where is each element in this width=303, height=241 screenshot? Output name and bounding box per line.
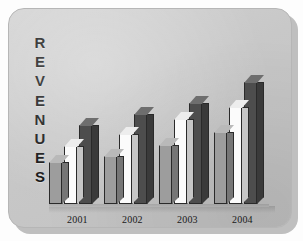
- bar-2001-series-1: [49, 162, 62, 204]
- x-tick-label-2002: 2002: [122, 214, 143, 225]
- bar-side-face: [227, 132, 234, 204]
- bar-side-face: [77, 146, 84, 204]
- screenshot-root: R E V E N U E S 2001 2002 2003 2004: [0, 0, 303, 241]
- bar-side-face: [202, 103, 209, 204]
- x-tick-label-2003: 2003: [177, 214, 198, 225]
- baseline-shading: [49, 206, 275, 213]
- bar-side-face: [242, 107, 249, 204]
- bar-side-face: [62, 162, 69, 204]
- bar-front-face: [214, 132, 227, 204]
- bar-front-face: [49, 162, 62, 204]
- x-tick-label-2004: 2004: [232, 214, 253, 225]
- bar-side-face: [257, 82, 264, 204]
- bar-front-face: [104, 156, 117, 204]
- bar-2002-series-1: [104, 156, 117, 204]
- bar-side-face: [187, 119, 194, 204]
- plot-area: 2001 2002 2003 2004: [9, 9, 292, 228]
- bar-2003-series-1: [159, 145, 172, 204]
- bar-side-face: [117, 156, 124, 204]
- bar-2004-series-1: [214, 132, 227, 204]
- bar-side-face: [147, 114, 154, 204]
- bar-side-face: [132, 134, 139, 204]
- x-tick-label-2001: 2001: [67, 214, 88, 225]
- chart-card: R E V E N U E S 2001 2002 2003 2004: [8, 8, 292, 228]
- bar-side-face: [172, 145, 179, 204]
- baseline-axis: [49, 204, 269, 207]
- bar-front-face: [159, 145, 172, 204]
- bar-side-face: [92, 125, 99, 204]
